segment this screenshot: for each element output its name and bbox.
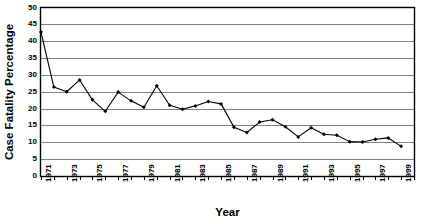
x-tick-label: 1997 xyxy=(379,164,387,182)
x-tick-label: 1985 xyxy=(225,164,233,182)
x-tick-label: 1983 xyxy=(199,164,207,182)
x-tick-label: 1987 xyxy=(251,164,259,182)
x-axis-title: Year xyxy=(40,206,415,218)
x-tick-label: 1981 xyxy=(174,164,182,182)
x-tick-label: 1979 xyxy=(148,164,156,182)
x-tick-label: 1977 xyxy=(122,164,130,182)
x-tick-label: 1991 xyxy=(302,164,310,182)
x-tick-label: 1995 xyxy=(354,164,362,182)
x-tick-label: 1999 xyxy=(405,164,413,182)
x-tick-label: 1975 xyxy=(96,164,104,182)
x-tick-label: 1971 xyxy=(45,164,53,182)
x-axis-tick-labels: 1971197319751977197919811983198519871989… xyxy=(0,0,421,224)
x-tick-label: 1989 xyxy=(277,164,285,182)
x-tick-label: 1973 xyxy=(71,164,79,182)
x-tick-label: 1993 xyxy=(328,164,336,182)
case-fatality-line-chart: Case Fatality Percentage 051015202530354… xyxy=(0,0,421,224)
